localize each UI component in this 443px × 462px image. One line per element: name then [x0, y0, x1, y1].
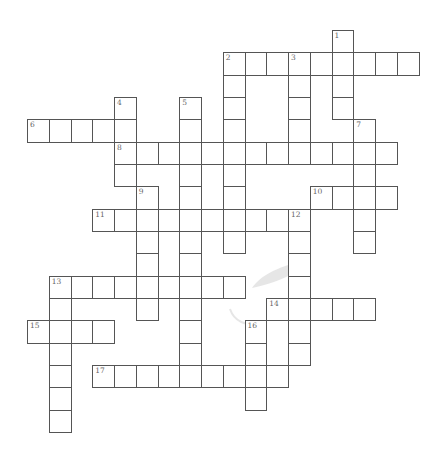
cell-letter-input[interactable]: [180, 321, 201, 342]
cell-letter-input[interactable]: [289, 120, 310, 141]
crossword-cell[interactable]: [223, 97, 246, 120]
crossword-cell[interactable]: [397, 52, 420, 75]
cell-letter-input[interactable]: [50, 388, 71, 409]
cell-letter-input[interactable]: [180, 344, 201, 365]
crossword-cell[interactable]: [136, 231, 159, 254]
cell-letter-input[interactable]: [333, 299, 354, 320]
crossword-cell[interactable]: 10: [310, 186, 333, 209]
crossword-cell[interactable]: [179, 253, 202, 276]
cell-letter-input[interactable]: [289, 321, 310, 342]
cell-letter-input[interactable]: [93, 210, 114, 231]
crossword-cell[interactable]: [201, 142, 224, 165]
cell-letter-input[interactable]: [333, 31, 354, 52]
cell-letter-input[interactable]: [224, 120, 245, 141]
crossword-cell[interactable]: [223, 231, 246, 254]
cell-letter-input[interactable]: [289, 210, 310, 231]
crossword-cell[interactable]: 13: [49, 276, 72, 299]
crossword-cell[interactable]: [136, 298, 159, 321]
cell-letter-input[interactable]: [354, 299, 375, 320]
crossword-cell[interactable]: [288, 276, 311, 299]
crossword-cell[interactable]: [201, 365, 224, 388]
crossword-cell[interactable]: 12: [288, 209, 311, 232]
cell-letter-input[interactable]: [137, 254, 158, 275]
crossword-cell[interactable]: 1: [332, 30, 355, 53]
cell-letter-input[interactable]: [137, 366, 158, 387]
crossword-cell[interactable]: [353, 298, 376, 321]
crossword-cell[interactable]: [92, 119, 115, 142]
crossword-cell[interactable]: [158, 209, 181, 232]
cell-letter-input[interactable]: [224, 76, 245, 97]
crossword-cell[interactable]: 4: [114, 97, 137, 120]
crossword-cell[interactable]: [114, 209, 137, 232]
cell-letter-input[interactable]: [159, 210, 180, 231]
cell-letter-input[interactable]: [311, 187, 332, 208]
cell-letter-input[interactable]: [180, 254, 201, 275]
cell-letter-input[interactable]: [246, 388, 267, 409]
crossword-cell[interactable]: [353, 231, 376, 254]
crossword-cell[interactable]: [245, 142, 268, 165]
cell-letter-input[interactable]: [93, 366, 114, 387]
cell-letter-input[interactable]: [267, 210, 288, 231]
cell-letter-input[interactable]: [50, 366, 71, 387]
crossword-cell[interactable]: [353, 52, 376, 75]
cell-letter-input[interactable]: [50, 321, 71, 342]
cell-letter-input[interactable]: [354, 53, 375, 74]
cell-letter-input[interactable]: [137, 277, 158, 298]
cell-letter-input[interactable]: [180, 165, 201, 186]
cell-letter-input[interactable]: [115, 98, 136, 119]
cell-letter-input[interactable]: [354, 165, 375, 186]
crossword-cell[interactable]: [375, 52, 398, 75]
cell-letter-input[interactable]: [224, 210, 245, 231]
cell-letter-input[interactable]: [180, 143, 201, 164]
crossword-cell[interactable]: [375, 142, 398, 165]
cell-letter-input[interactable]: [180, 98, 201, 119]
cell-letter-input[interactable]: [115, 143, 136, 164]
cell-letter-input[interactable]: [50, 344, 71, 365]
crossword-cell[interactable]: [288, 75, 311, 98]
crossword-cell[interactable]: 11: [92, 209, 115, 232]
crossword-cell[interactable]: [179, 186, 202, 209]
cell-letter-input[interactable]: [398, 53, 419, 74]
crossword-cell[interactable]: [223, 365, 246, 388]
cell-letter-input[interactable]: [311, 143, 332, 164]
crossword-cell[interactable]: 3: [288, 52, 311, 75]
cell-letter-input[interactable]: [224, 277, 245, 298]
crossword-cell[interactable]: [114, 365, 137, 388]
cell-letter-input[interactable]: [289, 232, 310, 253]
cell-letter-input[interactable]: [93, 321, 114, 342]
crossword-cell[interactable]: [332, 75, 355, 98]
cell-letter-input[interactable]: [333, 76, 354, 97]
cell-letter-input[interactable]: [311, 299, 332, 320]
crossword-cell[interactable]: [288, 343, 311, 366]
cell-letter-input[interactable]: [376, 143, 397, 164]
crossword-cell[interactable]: [288, 142, 311, 165]
crossword-cell[interactable]: [179, 320, 202, 343]
crossword-cell[interactable]: [288, 320, 311, 343]
cell-letter-input[interactable]: [246, 344, 267, 365]
cell-letter-input[interactable]: [376, 53, 397, 74]
cell-letter-input[interactable]: [333, 143, 354, 164]
crossword-cell[interactable]: [49, 387, 72, 410]
cell-letter-input[interactable]: [311, 53, 332, 74]
crossword-cell[interactable]: [114, 119, 137, 142]
cell-letter-input[interactable]: [246, 53, 267, 74]
crossword-cell[interactable]: [353, 164, 376, 187]
cell-letter-input[interactable]: [50, 120, 71, 141]
crossword-cell[interactable]: [353, 142, 376, 165]
cell-letter-input[interactable]: [224, 143, 245, 164]
crossword-cell[interactable]: 6: [27, 119, 50, 142]
crossword-cell[interactable]: [288, 97, 311, 120]
crossword-cell[interactable]: [179, 209, 202, 232]
cell-letter-input[interactable]: [115, 210, 136, 231]
cell-letter-input[interactable]: [72, 277, 93, 298]
crossword-cell[interactable]: [288, 253, 311, 276]
crossword-cell[interactable]: [266, 52, 289, 75]
crossword-cell[interactable]: [114, 276, 137, 299]
cell-letter-input[interactable]: [115, 165, 136, 186]
cell-letter-input[interactable]: [202, 366, 223, 387]
crossword-cell[interactable]: [223, 209, 246, 232]
cell-letter-input[interactable]: [246, 321, 267, 342]
crossword-cell[interactable]: [332, 142, 355, 165]
crossword-cell[interactable]: [310, 142, 333, 165]
cell-letter-input[interactable]: [376, 187, 397, 208]
